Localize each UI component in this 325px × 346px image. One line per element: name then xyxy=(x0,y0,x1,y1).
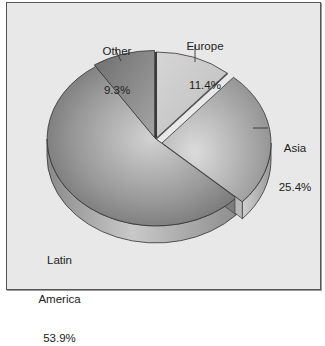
label-asia-name: Asia xyxy=(270,142,320,155)
label-latin-america-value: 53.9% xyxy=(32,332,87,345)
label-latin-america-name-1: Latin xyxy=(32,254,87,267)
label-other-value: 9.3% xyxy=(92,84,142,97)
label-europe-value: 11.4% xyxy=(175,79,235,92)
label-europe: Europe 11.4% xyxy=(175,14,235,105)
label-europe-name: Europe xyxy=(175,40,235,53)
label-asia-value: 25.4% xyxy=(270,181,320,194)
label-other: Other 9.3% xyxy=(92,19,142,110)
label-latin-america: Latin America 53.9% xyxy=(32,228,87,346)
label-other-name: Other xyxy=(92,45,142,58)
label-latin-america-name-2: America xyxy=(32,293,87,306)
label-asia: Asia 25.4% xyxy=(270,116,320,207)
